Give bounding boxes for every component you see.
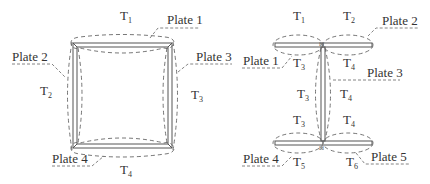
frame-inner xyxy=(77,47,168,144)
web xyxy=(321,47,325,141)
plate-3-leader xyxy=(178,64,232,72)
plate-5-envelope xyxy=(323,133,373,153)
plate-4-envelope xyxy=(273,133,323,153)
plate-1-leader xyxy=(150,28,200,38)
region-label: T4 xyxy=(343,112,355,129)
plate-1-envelope xyxy=(71,35,174,54)
plate-label: Plate 3 xyxy=(367,65,403,80)
plate-2-leader xyxy=(368,28,418,36)
plate-2-leader xyxy=(12,64,66,78)
plate-2-envelope xyxy=(323,35,373,55)
plate-label: Plate 2 xyxy=(382,13,418,28)
plate-label: Plate 5 xyxy=(371,149,407,164)
frame-outer xyxy=(73,43,172,148)
plate-label: Plate 2 xyxy=(12,49,48,64)
plate-envelopes xyxy=(273,35,373,153)
plate-label: Plate 4 xyxy=(243,151,279,166)
region-label: T3 xyxy=(293,55,305,72)
plate-label: Plate 3 xyxy=(196,49,232,64)
region-label: T3 xyxy=(191,87,203,104)
region-label: T6 xyxy=(346,154,358,171)
plate-2-envelope xyxy=(68,42,83,150)
diagram-canvas: Plate 1 Plate 2 Plate 3 Plate 4 T1 T2 T3… xyxy=(0,0,430,184)
left-figure: Plate 1 Plate 2 Plate 3 Plate 4 T1 T2 T3… xyxy=(12,8,232,179)
joint-icon: ⊠ xyxy=(319,144,324,151)
square-frame xyxy=(73,43,172,148)
plate-1-envelope xyxy=(273,35,323,55)
region-label: T5 xyxy=(293,154,305,171)
plate-3-envelope xyxy=(163,42,178,150)
region-label: T4 xyxy=(120,162,132,179)
plate-label: Plate 1 xyxy=(167,12,203,27)
region-label: T1 xyxy=(120,8,132,25)
region-label: T3 xyxy=(297,86,309,103)
plate-envelopes xyxy=(68,35,178,158)
plate-label: Plate 4 xyxy=(52,151,88,166)
region-label: T4 xyxy=(340,86,352,103)
region-label: T1 xyxy=(293,8,305,25)
region-label: T2 xyxy=(40,83,52,100)
right-figure: ⊠ ⊠ Plate 1 Plate 2 Plate 3 Plate 4 Plat… xyxy=(242,8,418,171)
region-label: T3 xyxy=(293,112,305,129)
region-label: T2 xyxy=(343,8,355,25)
region-label: T4 xyxy=(343,55,355,72)
plate-label: Plate 1 xyxy=(243,53,279,68)
plate-3-envelope xyxy=(316,48,331,140)
